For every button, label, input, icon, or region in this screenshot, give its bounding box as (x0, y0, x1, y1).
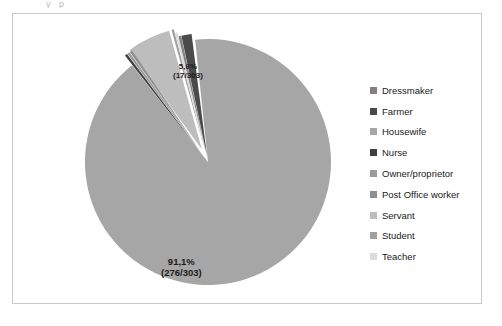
plot-area: 91,1% (276/303) 5,6% (17/303) Dressmaker… (13, 14, 483, 305)
legend-label: Post Office worker (382, 189, 459, 200)
legend-item-dressmaker[interactable]: Dressmaker (370, 80, 488, 101)
pie-chart (83, 16, 333, 301)
legend-swatch-icon (370, 128, 377, 135)
data-label-servant-fraction: (17/303) (173, 71, 203, 80)
data-label-housewife-fraction: (276/303) (161, 268, 202, 279)
legend-swatch-icon (370, 232, 377, 239)
legend-swatch-icon (370, 191, 377, 198)
pie-slice-housewife[interactable] (85, 39, 331, 285)
legend-item-farmer[interactable]: Farmer (370, 101, 488, 122)
legend-label: Farmer (382, 106, 413, 117)
figure-root: y p 91,1% (276/303) 5,6% (17/303) Dressm… (0, 0, 502, 326)
cropped-text-remnant: y p (46, 0, 166, 8)
legend-label: Nurse (382, 147, 407, 158)
legend-label: Owner/proprietor (382, 168, 453, 179)
legend-label: Student (382, 230, 415, 241)
legend-item-housewife[interactable]: Housewife (370, 122, 488, 143)
legend-swatch-icon (370, 253, 377, 260)
legend-label: Housewife (382, 126, 426, 137)
legend-item-nurse[interactable]: Nurse (370, 142, 488, 163)
data-label-housewife-percent: 91,1% (168, 256, 195, 267)
pie-slice-group (85, 29, 331, 285)
legend-item-servant[interactable]: Servant (370, 205, 488, 226)
chart-legend: DressmakerFarmerHousewifeNurseOwner/prop… (370, 80, 488, 267)
data-label-servant: 5,6% (17/303) (173, 62, 203, 80)
chart-frame: 91,1% (276/303) 5,6% (17/303) Dressmaker… (12, 13, 482, 304)
data-label-servant-percent: 5,6% (179, 62, 197, 71)
data-label-housewife: 91,1% (276/303) (161, 257, 202, 279)
legend-swatch-icon (370, 87, 377, 94)
legend-item-post-office-worker[interactable]: Post Office worker (370, 184, 488, 205)
legend-label: Teacher (382, 251, 416, 262)
legend-label: Servant (382, 210, 415, 221)
legend-label: Dressmaker (382, 85, 433, 96)
legend-item-teacher[interactable]: Teacher (370, 246, 488, 267)
legend-swatch-icon (370, 170, 377, 177)
legend-item-student[interactable]: Student (370, 226, 488, 247)
legend-item-owner-proprietor[interactable]: Owner/proprietor (370, 163, 488, 184)
legend-swatch-icon (370, 212, 377, 219)
legend-swatch-icon (370, 149, 377, 156)
legend-swatch-icon (370, 108, 377, 115)
